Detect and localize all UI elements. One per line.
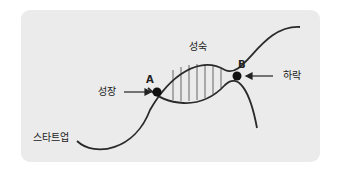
maturity-label: 성숙 [189,42,207,52]
decline-curve [148,81,257,128]
startup-label: 스타트업 [33,133,69,143]
lifecycle-diagram [0,0,339,172]
decline-label: 하락 [283,71,301,81]
growth-label: 성장 [98,87,116,97]
point-a-marker [153,88,162,97]
point-b-marker [233,72,242,81]
decline-arrow [246,73,273,79]
growth-arrow [124,89,151,95]
point-a-label: A [146,75,154,85]
point-b-label: B [238,60,246,70]
